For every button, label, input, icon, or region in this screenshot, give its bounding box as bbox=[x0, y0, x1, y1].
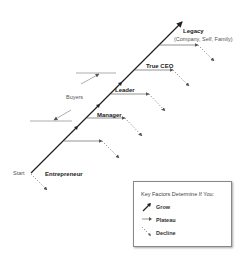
legend-grow: Grow bbox=[156, 204, 170, 210]
grow-arrow-icon bbox=[142, 202, 152, 212]
buyers-label: Buyers bbox=[66, 95, 83, 101]
start-label: Start bbox=[13, 171, 25, 177]
stage-entrepreneur: Entrepreneur bbox=[45, 171, 83, 177]
stage-legacy: Legacy bbox=[183, 28, 204, 34]
legend-plateau: Plateau bbox=[156, 217, 176, 223]
decline-arrow-icon bbox=[141, 226, 153, 238]
legend-decline: Decline bbox=[156, 230, 176, 236]
stage-legacy-sublabel: (Company, Self, Family) bbox=[174, 37, 233, 43]
plateau-arrow-icon bbox=[141, 216, 153, 222]
stage-manager: Manager bbox=[97, 112, 122, 118]
legend-title: Key Factors Determine If You: bbox=[141, 191, 214, 197]
legend-box: Key Factors Determine If You: Grow Plate… bbox=[133, 181, 232, 247]
stage-true-ceo: True CEO bbox=[146, 63, 173, 69]
plateau-branches bbox=[64, 45, 198, 141]
stage-leader: Leader bbox=[115, 87, 135, 93]
